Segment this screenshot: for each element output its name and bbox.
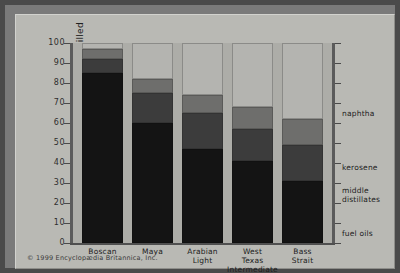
- axis-tick-mark: [335, 83, 341, 84]
- axis-tick-mark: [64, 203, 70, 204]
- y-tick-label: 20: [39, 199, 65, 207]
- bar-segment-fuel-oils: [182, 149, 223, 243]
- bar-segment-fuel-oils: [282, 181, 323, 243]
- axis-tick-mark: [335, 63, 341, 64]
- bar-segment-fuel-oils: [132, 123, 173, 243]
- bar-segment-naphtha: [282, 43, 323, 119]
- y-axis-left-spine: [70, 43, 73, 243]
- y-tick-label: 60: [39, 119, 65, 127]
- bar-segment-middle-distillates: [82, 59, 123, 73]
- axis-tick-mark: [335, 203, 341, 204]
- y-tick-label: 90: [39, 59, 65, 67]
- axis-tick-mark: [64, 183, 70, 184]
- axis-tick-mark: [64, 83, 70, 84]
- axis-tick-mark: [64, 243, 70, 244]
- axis-tick-mark: [335, 163, 341, 164]
- y-tick-label: 70: [39, 99, 65, 107]
- chart-panel: volume percent distilled 010203040506070…: [15, 14, 395, 269]
- legend: naphthakerosenemiddledistillatesfuel oil…: [342, 43, 400, 243]
- axis-tick-mark: [64, 123, 70, 124]
- bar-segment-middle-distillates: [182, 113, 223, 149]
- axis-tick-mark: [335, 143, 341, 144]
- axis-tick-mark: [335, 223, 341, 224]
- axis-tick-mark: [64, 163, 70, 164]
- y-tick-label: 30: [39, 179, 65, 187]
- legend-label-middle-distillates: middledistillates: [342, 186, 400, 204]
- x-axis-spine: [70, 243, 335, 245]
- bar-segment-kerosene: [182, 95, 223, 113]
- y-tick-label: 80: [39, 79, 65, 87]
- axis-tick-mark: [335, 43, 341, 44]
- bar-segment-naphtha: [182, 43, 223, 95]
- axis-tick-mark: [335, 103, 341, 104]
- figure-frame: volume percent distilled 010203040506070…: [0, 0, 400, 273]
- axis-tick-mark: [64, 223, 70, 224]
- plot-area: BoscanMayaArabianLightWestTexasIntermedi…: [73, 43, 332, 243]
- bar-segment-kerosene: [132, 79, 173, 93]
- axis-tick-mark: [335, 123, 341, 124]
- bar-segment-middle-distillates: [132, 93, 173, 123]
- bar-segment-fuel-oils: [82, 73, 123, 243]
- copyright-notice: © 1999 Encyclopædia Britannica, Inc.: [27, 254, 158, 262]
- bar-segment-naphtha: [82, 43, 123, 49]
- axis-tick-mark: [64, 63, 70, 64]
- stacked-bar: [182, 43, 223, 243]
- y-tick-label: 10: [39, 219, 65, 227]
- y-axis-tick-labels: 0102030405060708090100: [33, 43, 65, 243]
- bar-segment-kerosene: [282, 119, 323, 145]
- legend-label-naphtha: naphtha: [342, 109, 400, 118]
- y-tick-label: 40: [39, 159, 65, 167]
- axis-tick-mark: [64, 43, 70, 44]
- stacked-bar: [82, 43, 123, 243]
- y-tick-label: 0: [39, 239, 65, 247]
- y-tick-label: 50: [39, 139, 65, 147]
- axis-tick-mark: [64, 143, 70, 144]
- legend-label-kerosene: kerosene: [342, 163, 400, 172]
- bar-segment-kerosene: [82, 49, 123, 59]
- bar-segment-naphtha: [232, 43, 273, 107]
- axis-tick-mark: [64, 103, 70, 104]
- y-tick-label: 100: [39, 39, 65, 47]
- stacked-bar: [282, 43, 323, 243]
- bar-segment-kerosene: [232, 107, 273, 129]
- stacked-bar: [132, 43, 173, 243]
- axis-tick-mark: [335, 183, 341, 184]
- legend-label-fuel-oils: fuel oils: [342, 229, 400, 238]
- bar-segment-middle-distillates: [232, 129, 273, 161]
- x-category-label: BassStrait: [272, 247, 334, 265]
- axis-tick-mark: [335, 243, 341, 244]
- stacked-bar: [232, 43, 273, 243]
- bar-segment-naphtha: [132, 43, 173, 79]
- bar-segment-middle-distillates: [282, 145, 323, 181]
- bar-segment-fuel-oils: [232, 161, 273, 243]
